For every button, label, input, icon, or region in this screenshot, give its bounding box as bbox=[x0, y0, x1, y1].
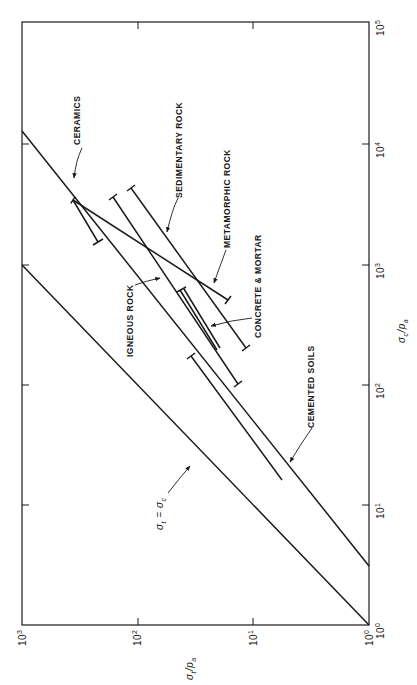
y-tick-10e1: 101 bbox=[247, 629, 259, 646]
y-axis-ticks bbox=[138, 22, 253, 625]
cemented-soils-line bbox=[191, 356, 282, 480]
sedimentary-arrow bbox=[167, 198, 178, 232]
label-ceramics: CERAMICS bbox=[72, 96, 82, 145]
label-concrete: CONCRETE & MORTAR bbox=[253, 234, 263, 338]
upper-envelope-line bbox=[22, 131, 369, 566]
chart-canvas bbox=[0, 0, 417, 685]
x-axis-title: σc/pa bbox=[396, 319, 409, 343]
y-tick-10e3: 103 bbox=[16, 629, 28, 646]
x-tick-10e5: 105 bbox=[374, 19, 386, 36]
x-tick-10e1: 101 bbox=[374, 502, 386, 519]
equality-arrow bbox=[168, 466, 190, 493]
label-equality: σt = σc bbox=[154, 498, 167, 530]
equality-line bbox=[22, 265, 369, 625]
label-cemented: CEMENTED SOILS bbox=[306, 345, 316, 428]
y-axis-title: σt/pa bbox=[184, 657, 197, 680]
x-tick-10e2: 102 bbox=[374, 382, 386, 399]
label-sedimentary: SEDIMENTARY ROCK bbox=[174, 102, 184, 198]
y-tick-10e0: 100 bbox=[363, 629, 375, 646]
metamorphic-arrow bbox=[214, 250, 226, 283]
x-tick-10e3: 103 bbox=[374, 262, 386, 279]
concrete-line-b bbox=[184, 289, 220, 348]
concrete-arrow bbox=[211, 318, 252, 326]
label-igneous: IGNEOUS ROCK bbox=[125, 284, 135, 357]
cemented-soils-arrow bbox=[290, 428, 312, 462]
igneous-arrow bbox=[135, 278, 160, 285]
y-tick-10e2: 102 bbox=[131, 629, 143, 646]
ceramics-arrow bbox=[74, 148, 82, 178]
label-metamorphic: METAMORPHIC ROCK bbox=[222, 149, 232, 248]
x-tick-10e0: 100 bbox=[374, 622, 386, 639]
x-tick-10e4: 104 bbox=[374, 141, 386, 158]
